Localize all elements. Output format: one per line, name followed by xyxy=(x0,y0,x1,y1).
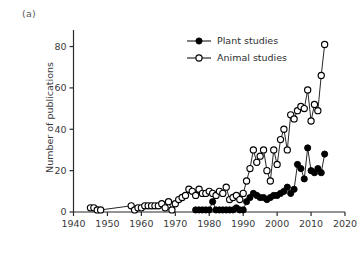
data-point-marker xyxy=(277,137,283,143)
data-point-marker xyxy=(182,192,188,198)
data-point-marker xyxy=(240,207,246,213)
data-point-marker xyxy=(210,199,216,205)
legend-label: Plant studies xyxy=(217,35,278,46)
x-tick-label: 1980 xyxy=(197,218,221,229)
data-point-marker xyxy=(162,205,168,211)
legend-label: Animal studies xyxy=(217,52,287,63)
legend-marker xyxy=(196,55,202,61)
data-point-marker xyxy=(305,145,311,151)
y-tick-label: 40 xyxy=(54,124,66,135)
data-point-marker xyxy=(237,196,243,202)
data-point-marker xyxy=(315,108,321,114)
data-point-marker xyxy=(318,72,324,78)
legend-item[interactable]: Animal studies xyxy=(187,52,287,63)
data-point-marker xyxy=(291,186,297,192)
data-point-marker xyxy=(223,184,229,190)
chart-figure: (a) Number of publications 020406080 194… xyxy=(0,0,363,254)
x-tick-label: 1990 xyxy=(231,218,255,229)
data-point-marker xyxy=(291,116,297,122)
chart-legend: Plant studiesAnimal studies xyxy=(187,35,287,63)
data-point-marker xyxy=(240,190,246,196)
x-tick-label: 2000 xyxy=(265,218,289,229)
data-point-marker xyxy=(322,41,328,47)
data-point-marker xyxy=(169,207,175,213)
data-point-marker xyxy=(264,168,270,174)
data-point-marker xyxy=(220,190,226,196)
data-point-marker xyxy=(254,159,260,165)
data-point-marker xyxy=(165,199,171,205)
y-tick-label: 20 xyxy=(54,165,66,176)
data-point-marker xyxy=(284,184,290,190)
y-tick-label: 0 xyxy=(60,206,66,217)
x-tick-label: 2010 xyxy=(299,218,323,229)
x-tick-label: 1960 xyxy=(129,218,153,229)
axes xyxy=(74,30,346,212)
legend-item[interactable]: Plant studies xyxy=(187,35,278,46)
data-point-marker xyxy=(308,118,314,124)
data-point-marker xyxy=(257,153,263,159)
y-axis-ticks: 020406080 xyxy=(54,41,73,217)
data-point-marker xyxy=(250,147,256,153)
data-point-marker xyxy=(281,126,287,132)
y-tick-label: 60 xyxy=(54,82,66,93)
data-point-marker xyxy=(298,165,304,171)
data-point-marker xyxy=(322,151,328,157)
x-tick-label: 1940 xyxy=(61,218,85,229)
data-point-marker xyxy=(260,147,266,153)
data-point-marker xyxy=(98,207,104,213)
data-point-marker xyxy=(301,176,307,182)
x-axis-ticks: 194019501960197019801990200020102020 xyxy=(61,212,357,229)
data-point-marker xyxy=(243,178,249,184)
data-point-marker xyxy=(311,101,317,107)
chart-plot-area: 020406080 194019501960197019801990200020… xyxy=(0,0,363,254)
data-point-marker xyxy=(284,147,290,153)
data-point-marker xyxy=(318,170,324,176)
x-tick-label: 2020 xyxy=(333,218,357,229)
x-tick-label: 1970 xyxy=(163,218,187,229)
data-point-marker xyxy=(305,87,311,93)
legend-marker xyxy=(196,38,202,44)
data-point-marker xyxy=(267,178,273,184)
data-point-marker xyxy=(247,165,253,171)
y-tick-label: 80 xyxy=(54,41,66,52)
x-tick-label: 1950 xyxy=(95,218,119,229)
data-point-marker xyxy=(193,192,199,198)
data-series-group xyxy=(87,41,327,213)
data-point-marker xyxy=(274,161,280,167)
data-point-marker xyxy=(301,105,307,111)
data-point-marker xyxy=(271,147,277,153)
data-point-marker xyxy=(206,207,212,213)
